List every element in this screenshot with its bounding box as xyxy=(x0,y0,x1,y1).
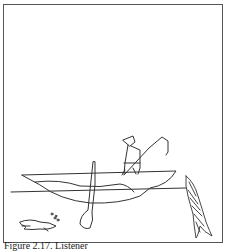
paddle-icon xyxy=(80,162,95,229)
small-fish-icon xyxy=(20,213,59,231)
canoe-icon xyxy=(22,171,176,203)
person-icon xyxy=(122,136,140,175)
water-line xyxy=(11,188,186,192)
large-fish-icon xyxy=(186,176,212,238)
figure-caption: Figure 2.17. Listener xyxy=(4,241,88,251)
fishing-rod-icon xyxy=(124,137,168,175)
